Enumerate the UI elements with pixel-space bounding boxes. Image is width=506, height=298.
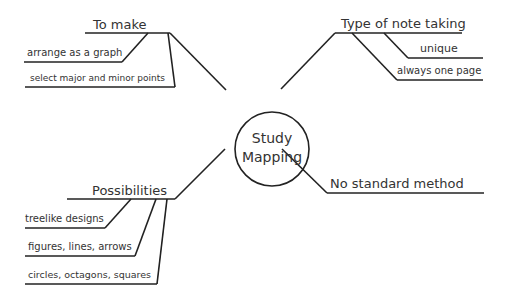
select-connector	[168, 33, 175, 87]
branch-item-unique: unique	[420, 43, 458, 54]
circles-connector	[157, 199, 167, 284]
figures-connector	[135, 199, 156, 256]
center-node-line1: Study	[236, 129, 308, 148]
unique-connector	[384, 33, 408, 58]
center-node: Study Mapping	[236, 129, 308, 167]
to-make-connector	[170, 33, 226, 90]
branch-item-always: always one page	[397, 66, 481, 76]
type-connector	[281, 33, 335, 89]
branch-possibilities-label: Possibilities	[92, 184, 167, 197]
center-node-line2: Mapping	[236, 148, 308, 167]
branch-to-make-label: To make	[93, 18, 147, 31]
branch-type-label: Type of note taking	[341, 17, 466, 30]
branch-no-standard-label: No standard method	[330, 177, 464, 190]
branch-item-circles: circles, octagons, squares	[28, 270, 151, 280]
branch-item-figures: figures, lines, arrows	[28, 242, 132, 252]
branch-item-select: select major and minor points	[30, 74, 165, 83]
possibilities-connector	[175, 149, 225, 199]
branch-item-treelike: treelike designs	[25, 214, 104, 224]
branch-item-arrange: arrange as a graph	[27, 48, 122, 58]
arrange-connector	[122, 33, 148, 62]
treelike-connector	[105, 199, 131, 228]
